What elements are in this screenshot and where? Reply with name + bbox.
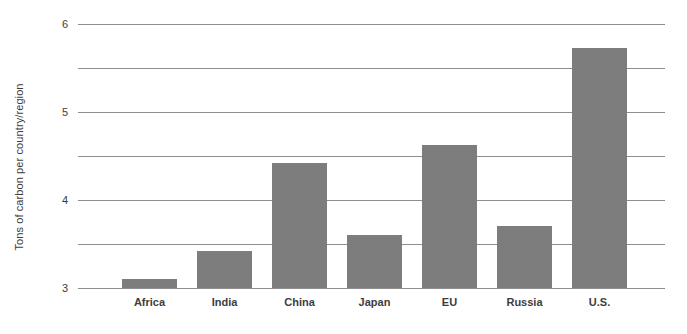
bar[interactable] (347, 235, 402, 288)
bar[interactable] (572, 48, 627, 288)
gridline: 0 (78, 288, 665, 289)
bar[interactable] (422, 145, 477, 288)
x-tick-label: China (272, 296, 327, 308)
y-axis-title: Tons of carbon per country/region (0, 0, 38, 334)
x-tick-label: India (197, 296, 252, 308)
bar-chart: Tons of carbon per country/region 012345… (0, 0, 687, 334)
x-tick-label: U.S. (572, 296, 627, 308)
x-tick-label: Japan (347, 296, 402, 308)
y-tick-label: 6 (62, 19, 68, 30)
y-tick-label: 3 (62, 283, 68, 294)
bar[interactable] (197, 251, 252, 288)
bar[interactable] (122, 279, 177, 288)
y-tick-label: 5 (62, 107, 68, 118)
x-tick-label: EU (422, 296, 477, 308)
x-tick-label: Russia (497, 296, 552, 308)
y-tick-label: 4 (62, 195, 68, 206)
bar[interactable] (272, 163, 327, 288)
x-axis-labels-group: AfricaIndiaChinaJapanEURussiaU.S. (78, 296, 665, 316)
bar[interactable] (497, 226, 552, 288)
x-tick-label: Africa (122, 296, 177, 308)
bars-group (78, 24, 665, 288)
plot-area: 0123456 (78, 24, 665, 288)
